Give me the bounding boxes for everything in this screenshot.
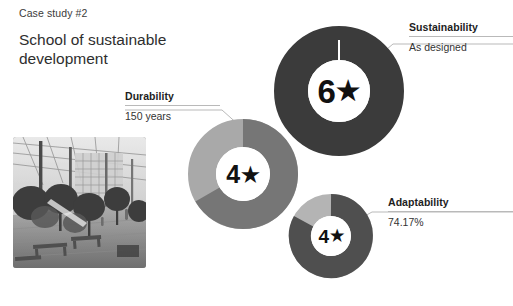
callout-title: Adaptability — [388, 196, 513, 208]
slide-canvas: Case study #2 School of sustainable deve… — [0, 0, 513, 306]
callout-adaptability: Adaptability 74.17% — [388, 196, 513, 228]
donut-hole-sustainability — [308, 60, 370, 122]
callout-durability: Durability 150 years — [125, 90, 220, 122]
donut-hole-durability — [216, 147, 270, 201]
callout-divider — [409, 36, 513, 37]
callout-divider — [125, 105, 220, 106]
callout-title: Durability — [125, 90, 220, 102]
callout-value: As designed — [409, 41, 513, 53]
donut-hole-adaptability — [311, 216, 351, 256]
page-title: School of sustainable development — [19, 30, 209, 68]
case-study-label: Case study #2 — [19, 7, 87, 19]
callout-sustainability: Sustainability As designed — [409, 21, 513, 53]
callout-divider — [388, 211, 513, 212]
callout-value: 74.17% — [388, 216, 513, 228]
atrium-photo-icon — [13, 137, 146, 268]
donut-chart-durability: 4 ★ — [188, 119, 298, 229]
callout-title: Sustainability — [409, 21, 513, 33]
donut-chart-adaptability: 4 ★ — [289, 194, 373, 278]
case-study-photo — [13, 137, 146, 268]
callout-value: 150 years — [125, 110, 220, 122]
